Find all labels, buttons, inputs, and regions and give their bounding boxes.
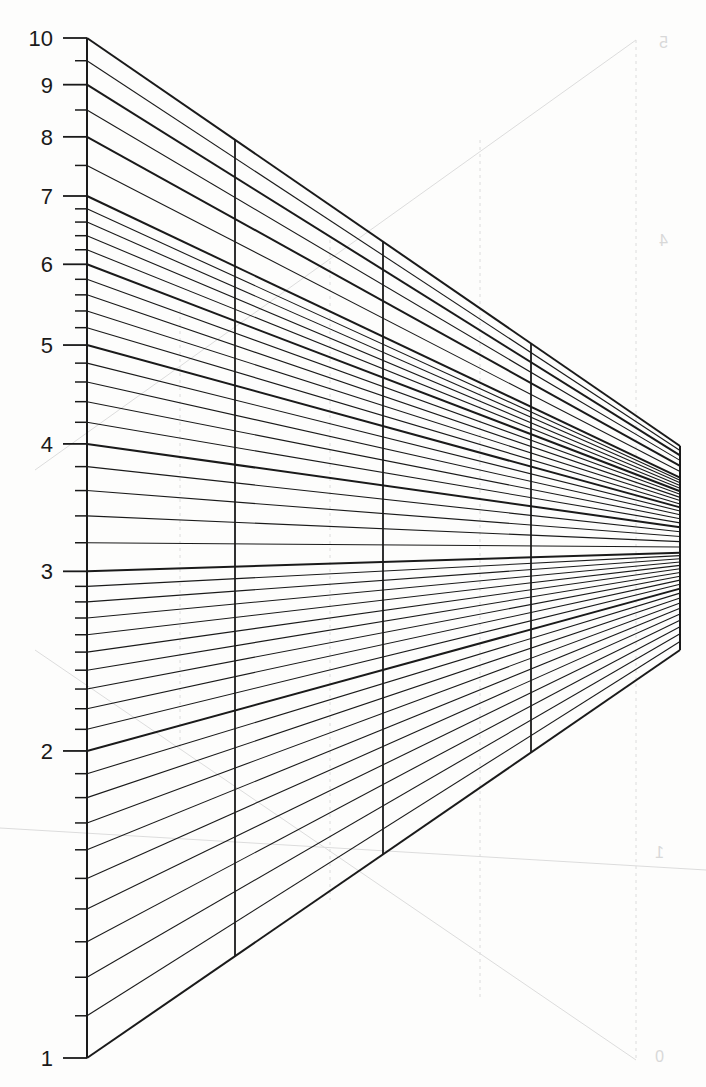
axis-ticks <box>63 38 87 1058</box>
axis-label-5: 5 <box>41 333 53 358</box>
axis-label-2: 2 <box>41 739 53 764</box>
axis-label-1: 1 <box>41 1046 53 1071</box>
ghost-diagonal-line <box>35 40 636 470</box>
ghost-label: 1 <box>655 844 664 861</box>
axis-labels: 12345678910 <box>29 26 53 1071</box>
ghost-horizontal-line <box>0 828 706 870</box>
ghost-label: 4 <box>659 232 668 249</box>
ghost-label: 0 <box>655 1048 664 1065</box>
grid-frame <box>87 38 680 1058</box>
log-perspective-diagram: 5410 12345678910 <box>0 0 706 1087</box>
axis-label-9: 9 <box>41 73 53 98</box>
bleed-through-layer: 5410 <box>0 34 706 1065</box>
axis-label-8: 8 <box>41 125 53 150</box>
axis-label-3: 3 <box>41 559 53 584</box>
axis-label-10: 10 <box>29 26 53 51</box>
ghost-label: 5 <box>659 34 668 51</box>
axis-label-7: 7 <box>41 184 53 209</box>
axis-label-4: 4 <box>41 432 53 457</box>
diagram-canvas: 5410 12345678910 <box>0 0 706 1087</box>
axis-label-6: 6 <box>41 252 53 277</box>
